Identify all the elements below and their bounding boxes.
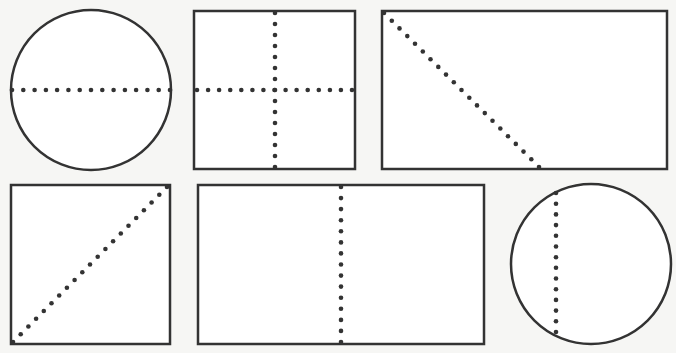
- divider-dot: [554, 223, 559, 228]
- divider-dot: [273, 33, 278, 38]
- divider-dot: [195, 88, 200, 93]
- divider-dot: [273, 165, 278, 170]
- divider-dot: [294, 88, 299, 93]
- divider-dot: [273, 121, 278, 126]
- divider-dot: [554, 266, 559, 271]
- divider-dot: [328, 88, 333, 93]
- divider-dot: [339, 307, 344, 312]
- divider-dot: [149, 200, 154, 205]
- divider-dot: [554, 244, 559, 249]
- divider-dot: [339, 218, 344, 223]
- divider-dot: [382, 11, 387, 16]
- shapes-diagram: [0, 0, 676, 353]
- divider-dot: [436, 65, 441, 70]
- divider-dot: [77, 88, 82, 93]
- divider-dot: [452, 80, 457, 85]
- divider-dot: [145, 88, 150, 93]
- divider-dot: [339, 88, 344, 93]
- divider-dot: [413, 42, 418, 47]
- divider-dot: [273, 44, 278, 49]
- divider-dot: [339, 196, 344, 201]
- divider-dot: [283, 88, 288, 93]
- divider-dot: [57, 293, 62, 298]
- divider-dot: [250, 88, 255, 93]
- divider-dot: [428, 57, 433, 62]
- divider-dot: [339, 229, 344, 234]
- shape-circle-vertical-chord: [511, 184, 671, 344]
- divider-dot: [339, 207, 344, 212]
- divider-dot: [42, 309, 47, 314]
- divider-dot: [111, 239, 116, 244]
- divider-dot: [273, 110, 278, 115]
- divider-dot: [65, 286, 70, 291]
- divider-dot: [514, 142, 519, 147]
- dotted-line-vertical-line: [339, 185, 344, 345]
- divider-dot: [111, 88, 116, 93]
- shape-circle-horizontal-diameter: [10, 10, 173, 170]
- divider-dot: [123, 88, 128, 93]
- shape-square-diagonal: [11, 185, 170, 345]
- divider-dot: [44, 88, 49, 93]
- divider-dot: [405, 34, 410, 39]
- divider-dot: [273, 55, 278, 60]
- divider-dot: [100, 88, 105, 93]
- divider-dot: [467, 95, 472, 100]
- divider-dot: [273, 132, 278, 137]
- dotted-line-horizontal-diameter: [10, 88, 173, 93]
- divider-dot: [157, 193, 162, 198]
- divider-dot: [168, 88, 173, 93]
- divider-dot: [554, 234, 559, 239]
- divider-dot: [339, 284, 344, 289]
- circle-outline: [511, 184, 671, 344]
- divider-dot: [119, 231, 124, 236]
- divider-dot: [273, 77, 278, 82]
- divider-dot: [339, 262, 344, 267]
- divider-dot: [537, 165, 542, 170]
- divider-dot: [165, 185, 170, 190]
- divider-dot: [55, 88, 60, 93]
- divider-dot: [80, 270, 85, 275]
- divider-dot: [66, 88, 71, 93]
- divider-dot: [21, 88, 26, 93]
- divider-dot: [11, 340, 16, 345]
- divider-dot: [554, 255, 559, 260]
- divider-dot: [156, 88, 161, 93]
- divider-dot: [26, 324, 31, 329]
- divider-dot: [554, 276, 559, 281]
- divider-dot: [554, 212, 559, 217]
- divider-dot: [421, 49, 426, 54]
- divider-dot: [339, 273, 344, 278]
- divider-dot: [390, 18, 395, 23]
- divider-dot: [273, 22, 278, 27]
- divider-dot: [273, 66, 278, 71]
- divider-dot: [103, 247, 108, 252]
- divider-dot: [339, 240, 344, 245]
- rect-outline: [382, 11, 667, 169]
- divider-dot: [339, 340, 344, 345]
- divider-dot: [350, 88, 355, 93]
- divider-dot: [217, 88, 222, 93]
- divider-dot: [126, 224, 131, 229]
- divider-dot: [134, 216, 139, 221]
- divider-dot: [521, 149, 526, 154]
- shapes-layer: [10, 10, 671, 344]
- divider-dot: [554, 308, 559, 313]
- divider-dot: [273, 11, 278, 16]
- divider-dot: [228, 88, 233, 93]
- divider-dot: [554, 191, 559, 196]
- divider-dot: [239, 88, 244, 93]
- divider-dot: [273, 143, 278, 148]
- divider-dot: [206, 88, 211, 93]
- shape-square-cross: [194, 11, 355, 170]
- divider-dot: [554, 298, 559, 303]
- divider-dot: [272, 88, 277, 93]
- divider-dot: [89, 88, 94, 93]
- divider-dot: [72, 278, 77, 283]
- divider-dot: [554, 201, 559, 206]
- divider-dot: [459, 88, 464, 93]
- divider-dot: [554, 319, 559, 324]
- divider-dot: [339, 185, 344, 190]
- divider-dot: [261, 88, 266, 93]
- divider-dot: [95, 254, 100, 259]
- divider-dot: [88, 262, 93, 267]
